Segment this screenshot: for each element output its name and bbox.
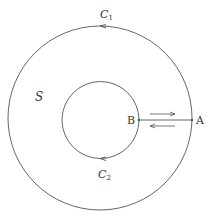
- diagram-canvas: C1 C2 S A B: [0, 0, 213, 222]
- label-c1: C1: [100, 8, 113, 22]
- point-a-dot: [191, 119, 193, 121]
- label-c2: C2: [98, 168, 111, 182]
- label-region-s: S: [35, 90, 43, 104]
- point-b-dot: [138, 119, 140, 121]
- outer-circle-c1: [8, 26, 192, 210]
- label-point-b: B: [127, 114, 135, 127]
- label-point-a: A: [195, 114, 205, 127]
